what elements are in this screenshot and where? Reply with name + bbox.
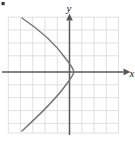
- y-axis-label: y: [66, 2, 72, 14]
- figure-container: y x: [0, 0, 135, 144]
- parabola-curve: [22, 18, 74, 131]
- grid-horizontal-lines: [8, 17, 118, 133]
- x-axis: [2, 69, 131, 76]
- corner-mark-icon: [2, 2, 5, 5]
- y-axis: [66, 14, 73, 136]
- grid-vertical-lines: [8, 17, 118, 133]
- x-axis-label: x: [129, 67, 135, 79]
